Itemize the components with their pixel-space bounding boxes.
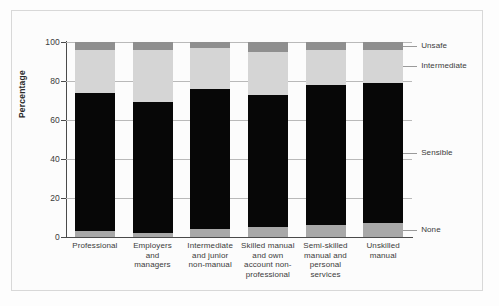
bar-6-segment-unsafe[interactable] [363, 42, 403, 50]
bar-2-segment-sensible[interactable] [133, 102, 173, 233]
bar-3-segment-unsafe[interactable] [190, 42, 230, 48]
y-tick-0 [61, 237, 66, 238]
bar-6-segment-intermediate[interactable] [363, 50, 403, 83]
bar-4-segment-unsafe[interactable] [248, 42, 288, 52]
bar-5-segment-intermediate[interactable] [306, 50, 346, 85]
bar-1-segment-sensible[interactable] [75, 93, 115, 231]
legend-label-unsafe[interactable]: Unsafe [421, 41, 447, 50]
bar-4-segment-sensible[interactable] [248, 95, 288, 228]
bar-2-segment-intermediate[interactable] [133, 50, 173, 103]
bar-5-segment-none[interactable] [306, 225, 346, 237]
x-axis-label-line: manual and [293, 251, 359, 261]
x-axis-label-line: Unskilled [350, 241, 416, 251]
y-tick-label-40: 40 [38, 154, 60, 164]
x-axis-label-line: manual [350, 251, 416, 261]
legend-label-none[interactable]: None [421, 225, 441, 234]
y-axis-label: Percentage [17, 70, 27, 118]
x-axis-label-line: non-manual [177, 260, 243, 270]
x-axis-label-5: Semi-skilledmanual andpersonalservices [293, 241, 359, 279]
legend-leader-line-sensible [403, 153, 417, 154]
x-axis-label-line: professional [235, 270, 301, 280]
bar-6-segment-none[interactable] [363, 223, 403, 237]
x-axis-label-line: and junior [177, 251, 243, 261]
legend-leader-line-unsafe [403, 46, 417, 47]
x-axis-line [66, 237, 413, 238]
y-tick-label-0: 0 [38, 232, 60, 242]
legend-leader-line-intermediate [403, 66, 417, 67]
bar-3-segment-sensible[interactable] [190, 89, 230, 229]
bar-5-segment-unsafe[interactable] [306, 42, 346, 50]
x-axis-label-line: Skilled manual [235, 241, 301, 251]
x-axis-label-line: personal [293, 260, 359, 270]
bar-3[interactable] [190, 42, 230, 237]
bars-layer [66, 42, 412, 237]
x-axis-label-2: Employersandmanagers [120, 241, 186, 270]
bar-1[interactable] [75, 42, 115, 237]
y-tick-label-20: 20 [38, 193, 60, 203]
bar-1-segment-unsafe[interactable] [75, 42, 115, 50]
bar-4-segment-none[interactable] [248, 227, 288, 237]
bar-5-segment-sensible[interactable] [306, 85, 346, 225]
bar-2-segment-none[interactable] [133, 233, 173, 237]
x-axis-label-line: Employers [120, 241, 186, 251]
legend-label-sensible[interactable]: Sensible [421, 148, 453, 157]
x-axis-label-6: Unskilledmanual [350, 241, 416, 260]
x-axis-label-line: and [120, 251, 186, 261]
bar-4-segment-intermediate[interactable] [248, 52, 288, 95]
bar-5[interactable] [306, 42, 346, 237]
bar-6[interactable] [363, 42, 403, 237]
y-tick-label-100: 100 [38, 37, 60, 47]
x-axis-label-3: Intermediateand juniornon-manual [177, 241, 243, 270]
legend-leader-line-none [403, 230, 417, 231]
x-axis-label-line: account non- [235, 260, 301, 270]
bar-1-segment-intermediate[interactable] [75, 50, 115, 93]
bar-3-segment-intermediate[interactable] [190, 48, 230, 89]
bar-4[interactable] [248, 42, 288, 237]
y-tick-label-60: 60 [38, 115, 60, 125]
x-axis-label-1: Professional [62, 241, 128, 251]
bar-2-segment-unsafe[interactable] [133, 42, 173, 50]
x-axis-label-line: Professional [62, 241, 128, 251]
x-axis-label-line: Intermediate [177, 241, 243, 251]
x-axis-label-line: managers [120, 260, 186, 270]
chart-page: Percentage 100 80 60 40 20 0 Professiona… [0, 0, 499, 306]
legend-label-intermediate[interactable]: Intermediate [421, 61, 467, 70]
bar-1-segment-none[interactable] [75, 231, 115, 237]
bar-2[interactable] [133, 42, 173, 237]
bar-3-segment-none[interactable] [190, 229, 230, 237]
y-tick-label-80: 80 [38, 76, 60, 86]
bar-6-segment-sensible[interactable] [363, 83, 403, 223]
x-axis-label-line: Semi-skilled [293, 241, 359, 251]
x-axis-label-4: Skilled manualand ownaccount non-profess… [235, 241, 301, 279]
x-axis-label-line: and own [235, 251, 301, 261]
x-axis-label-line: services [293, 270, 359, 280]
